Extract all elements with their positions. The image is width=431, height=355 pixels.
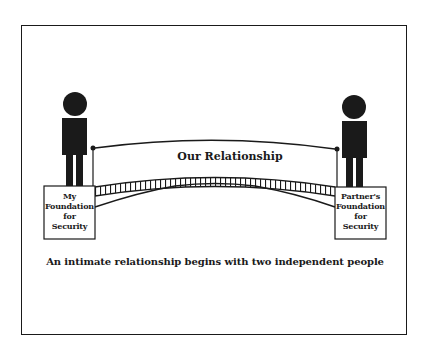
right-person-icon <box>342 95 367 187</box>
left-box-line-3: for <box>44 211 95 221</box>
right-foundation-label: Partner's Foundation for Security <box>335 191 386 231</box>
left-foundation-label: My Foundation for Security <box>44 191 95 231</box>
right-box-line-1: Partner's <box>335 191 386 201</box>
diagram-canvas: Our Relationship My Foundation for Secur… <box>0 0 431 355</box>
bridge-deck <box>95 178 335 197</box>
right-box-line-3: for <box>335 211 386 221</box>
left-box-line-4: Security <box>44 221 95 231</box>
left-box-line-2: Foundation <box>44 201 95 211</box>
top-rope <box>95 140 335 149</box>
relationship-title: Our Relationship <box>170 150 290 163</box>
bridge-illustration <box>0 0 431 355</box>
diagram-caption: An intimate relationship begins with two… <box>30 256 400 267</box>
right-box-line-4: Security <box>335 221 386 231</box>
left-person-icon <box>62 92 87 186</box>
left-box-line-1: My <box>44 191 95 201</box>
right-box-line-2: Foundation <box>335 201 386 211</box>
